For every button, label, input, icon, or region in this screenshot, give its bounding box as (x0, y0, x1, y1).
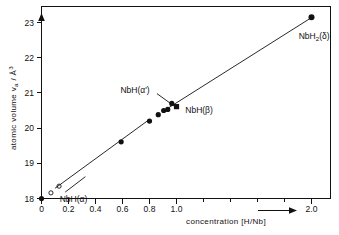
annotation-label-nbh2-delta-tail: (δ) (319, 31, 330, 41)
x-axis-title: concentration [H/Nb] (186, 217, 266, 226)
y-tick-label-20: 20 (25, 123, 35, 133)
annotation-label-nbh-alpha: NbH(α) (60, 194, 88, 204)
data-point-0p865 (156, 112, 161, 117)
annotation-label-nbh-alpha-prime: NbH(α') (120, 85, 149, 95)
data-point-0p59 (119, 139, 124, 144)
y-tick-label-18: 18 (25, 194, 35, 204)
data-points-filled-square (174, 104, 179, 109)
x-tick-label-0p2: 0.2 (63, 204, 75, 214)
y-axis-title-unit-sup: 3 (7, 66, 14, 70)
y-axis-ticks (37, 23, 42, 169)
annotation-label-nbh2-delta: NbH2(δ) (299, 31, 330, 42)
x-tick-label-2p0: 2.0 (306, 204, 318, 214)
chart-figure: 23 22 21 20 19 18 atomic volume va / Å3 (0, 0, 339, 235)
x-tick-label-0p6: 0.6 (117, 204, 129, 214)
fit-lines (55, 18, 312, 189)
y-tick-label-19: 19 (25, 158, 35, 168)
fit-line-lower (55, 120, 148, 188)
y-tick-label-22: 22 (25, 53, 35, 63)
y-axis-title-main: atomic volume v (9, 87, 18, 150)
data-point-0p935 (165, 107, 170, 112)
atomic-volume-vs-concentration-chart: 23 22 21 20 19 18 atomic volume va / Å3 (0, 0, 339, 235)
data-point-0p965 (169, 101, 174, 106)
x-tick-label-1p0: 1.0 (171, 204, 183, 214)
x-tick-label-0p4: 0.4 (90, 204, 102, 214)
y-axis-title-unit: / Å (9, 69, 18, 83)
data-point-0p80 (147, 118, 152, 123)
data-point-nbh-beta (174, 104, 179, 109)
y-axis-title: atomic volume va / Å3 (7, 66, 19, 150)
svg-text:atomic volume va / Å3: atomic volume va / Å3 (7, 66, 19, 150)
annotation-label-nbh-beta: NbH(β) (185, 105, 213, 115)
data-point-nbh2-delta (309, 14, 315, 20)
x-tick-label-0p8: 0.8 (144, 204, 156, 214)
x-axis-tick-labels: 0 0.2 0.4 0.6 0.8 1.0 2.0 (39, 204, 318, 214)
data-point-open-1 (49, 191, 53, 195)
y-axis-tick-labels: 23 22 21 20 19 18 (25, 18, 35, 204)
x-tick-label-0: 0 (39, 204, 44, 214)
plot-frame (42, 7, 331, 199)
y-tick-label-23: 23 (25, 18, 35, 28)
annotation-label-nbh2-delta-main: NbH (299, 31, 316, 41)
fit-line-upper (167, 18, 311, 109)
y-tick-label-21: 21 (25, 88, 35, 98)
data-point-origin (39, 196, 44, 201)
